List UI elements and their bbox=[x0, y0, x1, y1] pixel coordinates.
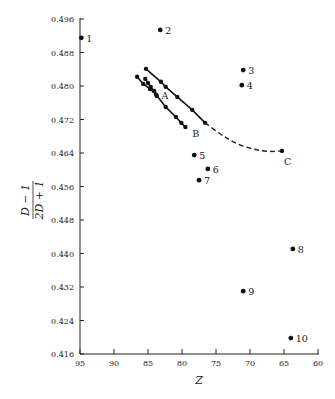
curve-label-b: B bbox=[192, 128, 199, 139]
x-tick-label: 60 bbox=[313, 359, 323, 368]
point-label: 1 bbox=[86, 33, 92, 44]
data-point bbox=[239, 83, 244, 88]
y-tick-label: 0.480 bbox=[51, 82, 74, 91]
data-point bbox=[175, 95, 179, 99]
x-ticks: 9590858075706560 bbox=[75, 349, 323, 368]
y-axis-title-denominator: 2D + 1 bbox=[33, 180, 46, 220]
y-tick-label: 0.416 bbox=[51, 350, 74, 359]
point-label: 3 bbox=[248, 65, 254, 76]
data-point bbox=[135, 75, 139, 79]
x-tick-label: 65 bbox=[279, 359, 289, 368]
data-point bbox=[163, 105, 167, 109]
y-axis-title: D − 1 2D + 1 bbox=[19, 180, 46, 220]
data-point bbox=[192, 153, 197, 158]
x-tick-label: 85 bbox=[143, 359, 153, 368]
y-tick-label: 0.472 bbox=[51, 116, 74, 125]
x-axis-title: Z bbox=[194, 374, 203, 387]
data-point bbox=[280, 149, 284, 153]
data-point bbox=[183, 125, 187, 129]
labeled-points: 12345678910 bbox=[79, 25, 308, 344]
y-tick-label: 0.464 bbox=[51, 149, 74, 158]
data-point bbox=[159, 80, 163, 84]
point-9: 9 bbox=[241, 286, 254, 297]
point-1: 1 bbox=[79, 33, 92, 44]
data-point bbox=[79, 35, 84, 40]
curve-annotations: ABC bbox=[161, 90, 292, 167]
x-tick-label: 75 bbox=[211, 359, 221, 368]
data-point bbox=[144, 67, 148, 71]
y-tick-label: 0.432 bbox=[51, 283, 74, 292]
axes bbox=[80, 18, 319, 354]
dashed-curve bbox=[205, 123, 282, 152]
y-ticks: 0.4160.4240.4320.4400.4480.4560.4640.472… bbox=[51, 15, 84, 359]
data-point bbox=[179, 121, 183, 125]
point-7: 7 bbox=[197, 175, 210, 186]
data-point bbox=[174, 115, 178, 119]
curve-label-a: A bbox=[161, 90, 169, 101]
data-point bbox=[241, 289, 246, 294]
point-label: 6 bbox=[213, 164, 219, 175]
x-tick-label: 70 bbox=[245, 359, 255, 368]
point-3: 3 bbox=[241, 65, 254, 76]
series-lines bbox=[135, 67, 284, 153]
y-tick-label: 0.496 bbox=[51, 15, 74, 24]
data-point bbox=[290, 246, 295, 251]
y-tick-label: 0.488 bbox=[51, 49, 74, 58]
y-tick-label: 0.448 bbox=[51, 216, 74, 225]
point-2: 2 bbox=[158, 25, 171, 36]
point-10: 10 bbox=[288, 333, 307, 344]
curve-label-c: C bbox=[284, 156, 291, 167]
point-label: 10 bbox=[296, 333, 308, 344]
y-tick-label: 0.440 bbox=[51, 250, 74, 259]
point-6: 6 bbox=[205, 164, 218, 175]
data-point bbox=[141, 82, 145, 86]
data-point bbox=[158, 27, 163, 32]
data-point bbox=[288, 336, 293, 341]
point-label: 5 bbox=[199, 150, 205, 161]
point-4: 4 bbox=[239, 80, 252, 91]
data-point bbox=[148, 87, 152, 91]
x-tick-label: 95 bbox=[75, 359, 85, 368]
point-label: 2 bbox=[165, 25, 171, 36]
point-8: 8 bbox=[290, 244, 303, 255]
point-label: 8 bbox=[298, 244, 304, 255]
chart-container: 0.4160.4240.4320.4400.4480.4560.4640.472… bbox=[0, 0, 335, 399]
data-point bbox=[146, 81, 150, 85]
data-point bbox=[143, 77, 147, 81]
series-c bbox=[205, 123, 284, 153]
data-point bbox=[163, 85, 167, 89]
data-point bbox=[154, 93, 158, 97]
x-tick-label: 80 bbox=[177, 359, 187, 368]
x-tick-label: 90 bbox=[109, 359, 119, 368]
scatter-plot: 0.4160.4240.4320.4400.4480.4560.4640.472… bbox=[0, 0, 335, 399]
point-label: 7 bbox=[204, 175, 210, 186]
point-label: 4 bbox=[247, 80, 253, 91]
point-5: 5 bbox=[192, 150, 205, 161]
data-point bbox=[190, 108, 194, 112]
y-tick-label: 0.456 bbox=[51, 183, 74, 192]
y-tick-label: 0.424 bbox=[51, 317, 74, 326]
data-point bbox=[241, 68, 246, 73]
data-point bbox=[197, 178, 202, 183]
data-point bbox=[205, 167, 210, 172]
point-label: 9 bbox=[248, 286, 254, 297]
y-axis-title-numerator: D − 1 bbox=[19, 184, 32, 217]
